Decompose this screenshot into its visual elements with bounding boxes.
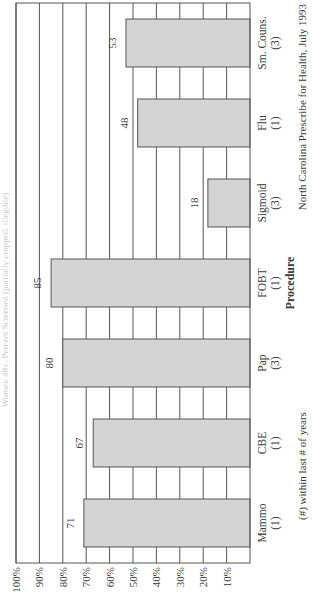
data-label: 48	[118, 117, 130, 129]
category-label: Sm. Couns.	[256, 16, 268, 69]
x-axis-title: Procedure	[283, 256, 297, 310]
category-label: CBE	[256, 432, 268, 454]
y-tick-label: 80%	[57, 567, 69, 587]
category-label: Pap	[256, 354, 269, 372]
y-tick-label: 30%	[174, 567, 186, 587]
category-interval: (1)	[269, 276, 282, 290]
y-tick-label: 40%	[150, 567, 162, 587]
category-label: Mammo	[256, 503, 268, 542]
data-label: 80	[43, 357, 55, 369]
source-note: North Carolina Prescribe for Health, Jul…	[296, 4, 308, 211]
bar	[126, 19, 250, 67]
data-label: 67	[73, 437, 85, 449]
bar	[63, 339, 250, 387]
y-tick-label: 100%	[10, 567, 22, 593]
bar	[84, 499, 250, 547]
category-label: Flu	[256, 115, 268, 131]
y-tick-label: 50%	[127, 567, 139, 587]
footnote: (#) within last # of years	[296, 412, 309, 520]
y-tick-label: 10%	[221, 567, 233, 587]
category-interval: (1)	[269, 116, 282, 130]
bar	[138, 99, 250, 147]
y-tick-labels: 10%20%30%40%50%60%70%80%90%100%	[10, 567, 233, 593]
category-interval: (3)	[269, 356, 282, 370]
y-tick-label: 70%	[80, 567, 92, 587]
x-category-labels: Mammo(1)CBE(1)Pap(3)FOBT(1)Sigmoid(3)Flu…	[256, 16, 282, 542]
category-interval: (1)	[269, 436, 282, 450]
bar-chart: Women 40+, Percent Screened (partially c…	[0, 0, 313, 600]
data-label: 71	[64, 518, 76, 529]
category-label: FOBT	[256, 268, 268, 297]
y-tick-label: 20%	[197, 567, 209, 587]
category-interval: (3)	[269, 196, 282, 210]
y-tick-label: 60%	[104, 567, 116, 587]
bar	[208, 179, 250, 227]
chart-title: Women 40+, Percent Screened (partially c…	[0, 193, 10, 407]
data-label: 53	[106, 37, 118, 49]
category-label: Sigmoid	[256, 183, 269, 222]
category-interval: (3)	[269, 36, 282, 50]
y-tick-label: 90%	[33, 567, 45, 587]
bar	[93, 419, 250, 467]
category-interval: (1)	[269, 516, 282, 530]
data-label: 85	[31, 277, 43, 289]
bars	[51, 19, 250, 547]
data-label: 18	[188, 197, 200, 209]
chart-stage: Women 40+, Percent Screened (partially c…	[0, 0, 313, 600]
bar	[51, 259, 250, 307]
